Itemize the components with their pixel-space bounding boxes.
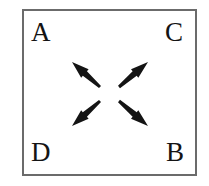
corner-label-bottom-right: B <box>166 139 184 166</box>
corner-label-top-left: A <box>31 19 51 46</box>
corner-label-top-right: C <box>165 19 183 46</box>
corner-label-bottom-left: D <box>31 139 51 166</box>
figure-root: A C D B <box>0 0 209 186</box>
